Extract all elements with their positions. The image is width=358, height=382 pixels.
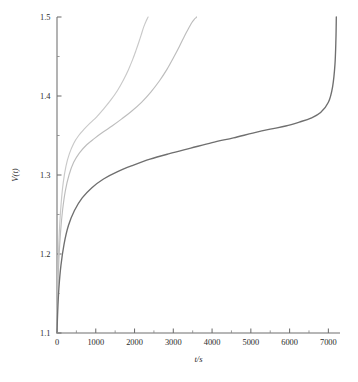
x-tick-label: 5000 — [242, 338, 259, 347]
x-axis-title: t/s — [194, 354, 203, 364]
x-tick-label: 7000 — [320, 338, 337, 347]
x-tick-label: 0 — [55, 338, 59, 347]
line-chart: 010002000300040005000600070001.11.21.31.… — [0, 0, 358, 382]
x-tick-label: 2000 — [126, 338, 143, 347]
x-tick-label: 4000 — [204, 338, 221, 347]
y-tick-label: 1.4 — [40, 92, 51, 101]
y-tick-label: 1.5 — [40, 13, 50, 22]
y-tick-label: 1.1 — [40, 329, 50, 338]
x-tick-label: 6000 — [281, 338, 298, 347]
chart-background — [0, 0, 358, 382]
y-tick-label: 1.2 — [40, 250, 50, 259]
y-axis-title: V(t) — [10, 168, 20, 181]
x-tick-label: 3000 — [165, 338, 182, 347]
chart-figure: 010002000300040005000600070001.11.21.31.… — [0, 0, 358, 382]
x-tick-label: 1000 — [87, 338, 104, 347]
y-tick-label: 1.3 — [40, 171, 50, 180]
